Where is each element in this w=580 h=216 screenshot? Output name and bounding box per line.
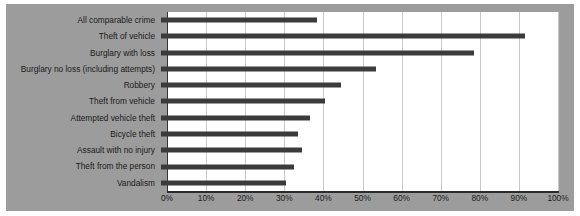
bar-row: Robbery bbox=[6, 77, 574, 93]
x-tick-label: 80% bbox=[471, 194, 488, 204]
category-label: Theft from the person bbox=[6, 162, 161, 170]
category-label: All comparable crime bbox=[6, 16, 161, 24]
bar bbox=[161, 66, 376, 71]
bar bbox=[161, 83, 341, 88]
category-label: Vandalism bbox=[6, 179, 161, 187]
bar-track bbox=[161, 45, 552, 61]
x-tick-label: 0% bbox=[161, 194, 173, 204]
bar-row: Assault with no injury bbox=[6, 142, 574, 158]
x-tick-label: 20% bbox=[237, 194, 254, 204]
bar-chart-figure: All comparable crimeTheft of vehicleBurg… bbox=[6, 4, 574, 211]
bar-track bbox=[161, 61, 552, 77]
category-label: Robbery bbox=[6, 81, 161, 89]
bar-track bbox=[161, 110, 552, 126]
bar-track bbox=[161, 28, 552, 44]
bar-row: Theft from vehicle bbox=[6, 93, 574, 109]
category-label: Attempted vehicle theft bbox=[6, 114, 161, 122]
category-label: Bicycle theft bbox=[6, 130, 161, 138]
category-label: Burglary with loss bbox=[6, 49, 161, 57]
category-label: Theft from vehicle bbox=[6, 97, 161, 105]
category-label: Burglary no loss (including attempts) bbox=[6, 65, 161, 73]
bar-row: Burglary with loss bbox=[6, 45, 574, 61]
bar-row: Bicycle theft bbox=[6, 126, 574, 142]
x-tick-label: 50% bbox=[354, 194, 371, 204]
x-tick-label: 30% bbox=[276, 194, 293, 204]
bar bbox=[161, 148, 302, 153]
bar-row: Theft from the person bbox=[6, 158, 574, 174]
bar bbox=[161, 115, 310, 120]
bar bbox=[161, 99, 325, 104]
bar-track bbox=[161, 93, 552, 109]
bar bbox=[161, 18, 317, 23]
bar bbox=[161, 164, 294, 169]
bar-row: Theft of vehicle bbox=[6, 28, 574, 44]
bar-track bbox=[161, 142, 552, 158]
bar-row: Vandalism bbox=[6, 175, 574, 191]
bar bbox=[161, 132, 298, 137]
bar-track bbox=[161, 126, 552, 142]
x-tick-label: 100% bbox=[547, 194, 568, 204]
bar-rows: All comparable crimeTheft of vehicleBurg… bbox=[6, 12, 574, 191]
x-tick-label: 70% bbox=[432, 194, 449, 204]
bar bbox=[161, 34, 525, 39]
x-tick-label: 90% bbox=[511, 194, 528, 204]
x-tick-label: 10% bbox=[198, 194, 215, 204]
bar-track bbox=[161, 12, 552, 28]
bar bbox=[161, 180, 286, 185]
bar-track bbox=[161, 175, 552, 191]
bar-row: Attempted vehicle theft bbox=[6, 110, 574, 126]
category-label: Theft of vehicle bbox=[6, 32, 161, 40]
bar-row: All comparable crime bbox=[6, 12, 574, 28]
bar-row: Burglary no loss (including attempts) bbox=[6, 61, 574, 77]
bar bbox=[161, 50, 474, 55]
bar-track bbox=[161, 77, 552, 93]
bar-track bbox=[161, 158, 552, 174]
x-tick-label: 40% bbox=[315, 194, 332, 204]
x-tick-label: 60% bbox=[393, 194, 410, 204]
x-axis-tick-labels: 0%10%20%30%40%50%60%70%80%90%100% bbox=[167, 194, 558, 208]
category-label: Assault with no injury bbox=[6, 146, 161, 154]
